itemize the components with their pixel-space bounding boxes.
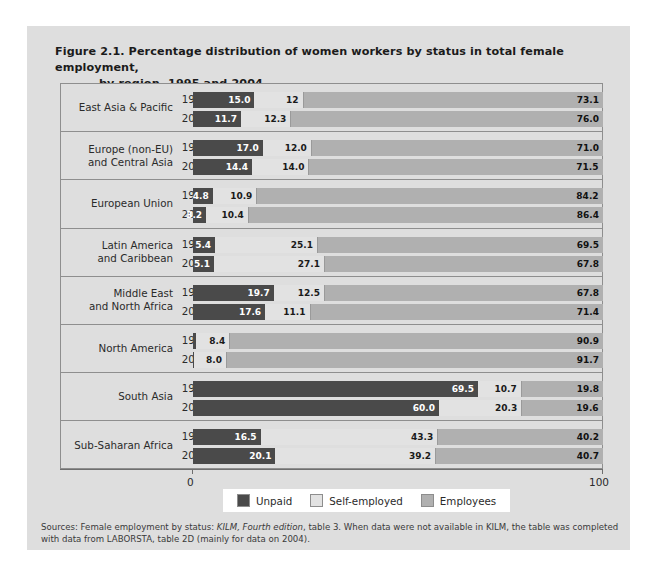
figure-title-line1: Figure 2.1. Percentage distribution of w…: [55, 45, 564, 74]
bar-segment-value: 14.4: [226, 162, 252, 172]
bar-segment-value: 67.8: [577, 259, 603, 269]
bar-segment-self-employed: 12.3: [241, 111, 291, 127]
legend-item: Employees: [421, 494, 496, 507]
bar-segment-value: 91.7: [577, 355, 603, 365]
bar-segment-value: 39.2: [409, 451, 435, 461]
bar-segment-value: 60.0: [413, 403, 439, 413]
bar-segment-self-employed: 25.1: [215, 237, 318, 253]
bar-segment-self-employed: 12.5: [274, 285, 325, 301]
bar-segment-value: 40.2: [577, 432, 603, 442]
bar-segment-value: 43.3: [411, 432, 437, 442]
region-group: Europe (non-EU)and Central Asia199517.01…: [61, 132, 602, 180]
bar-segment-unpaid: 69.5: [193, 381, 478, 397]
region-label-line: and Caribbean: [61, 252, 173, 265]
bar-row: 200411.712.376.0: [178, 111, 602, 127]
region-label: Middle Eastand North Africa: [61, 277, 178, 324]
bar-segment-unpaid: 60.0: [193, 400, 439, 416]
bar-segment-self-employed: 20.3: [439, 400, 522, 416]
bar-segment-value: 10.4: [222, 210, 248, 220]
region-label: South Asia: [61, 373, 178, 420]
bar-segment-value: 84.2: [576, 191, 602, 201]
bar-segment-employees: 19.6: [522, 400, 602, 416]
bar-segment-value: 27.1: [298, 259, 324, 269]
bar-segment-value: 71.0: [577, 143, 603, 153]
stacked-bar: 14.414.071.5: [193, 159, 603, 175]
legend-swatch-icon: [310, 494, 323, 507]
bar-segment-value: 12: [286, 95, 303, 105]
figure-panel: Figure 2.1. Percentage distribution of w…: [27, 26, 630, 550]
bar-segment-employees: 40.7: [436, 448, 603, 464]
bar-row: 19954.810.984.2: [178, 188, 602, 204]
bar-segment-employees: 86.4: [249, 207, 603, 223]
bar-segment-unpaid: 19.7: [193, 285, 274, 301]
bar-segment-value: 20.1: [249, 451, 275, 461]
bar-row: 200460.020.319.6: [178, 400, 602, 416]
bar-segment-self-employed: 27.1: [214, 256, 325, 272]
legend-label: Self-employed: [329, 495, 403, 507]
bar-segment-employees: 67.8: [325, 256, 603, 272]
chart-rows: East Asia & Pacific199515.01273.1200411.…: [61, 84, 602, 468]
bar-segment-self-employed: 8.4: [196, 333, 230, 349]
bar-segment-value: 25.1: [291, 240, 317, 250]
stacked-bar: 16.543.340.2: [193, 429, 603, 445]
bar-segment-self-employed: 12.0: [263, 140, 312, 156]
bar-segment-employees: 91.7: [227, 352, 603, 368]
bar-segment-employees: 76.0: [291, 111, 603, 127]
bar-segment-self-employed: 10.7: [478, 381, 522, 397]
bar-segment-employees: 71.0: [312, 140, 603, 156]
stacked-bar: 15.01273.1: [193, 92, 603, 108]
bar-segment-value: 11.7: [215, 114, 241, 124]
bar-segment-value: 3.2: [186, 210, 206, 220]
bar-segment-self-employed: 12: [254, 92, 303, 108]
bar-segment-unpaid: 14.4: [193, 159, 252, 175]
bar-segment-value: 10.7: [495, 384, 521, 394]
chart-legend: UnpaidSelf-employedEmployees: [223, 489, 510, 512]
bar-segment-unpaid: 5.4: [193, 237, 215, 253]
x-axis-line: [60, 469, 603, 470]
region-group: North America19950.78.490.920040.38.091.…: [61, 325, 602, 373]
bar-segment-self-employed: 8.0: [194, 352, 227, 368]
bar-segment-value: 19.8: [577, 384, 603, 394]
bar-segment-value: 71.4: [577, 307, 603, 317]
region-label: Latin Americaand Caribbean: [61, 229, 178, 276]
stacked-bar: 8.091.7: [193, 352, 603, 368]
region-group: Latin Americaand Caribbean19955.425.169.…: [61, 229, 602, 277]
bar-segment-value: 12.3: [264, 114, 290, 124]
bar-segment-value: 11.1: [283, 307, 309, 317]
bar-segment-employees: 19.8: [522, 381, 603, 397]
bar-segment-unpaid: 15.0: [193, 92, 254, 108]
bar-row: 199515.01273.1: [178, 92, 602, 108]
bar-segment-value: 69.5: [452, 384, 478, 394]
bar-segment-self-employed: 14.0: [252, 159, 309, 175]
bar-segment-value: 15.0: [228, 95, 254, 105]
bar-segment-value: 8.0: [206, 355, 226, 365]
sources-note: Sources: Female employment by status: KI…: [41, 521, 619, 545]
bar-segment-unpaid: 5.1: [193, 256, 214, 272]
bar-segment-employees: 90.9: [230, 333, 603, 349]
region-label: East Asia & Pacific: [61, 84, 178, 131]
bar-segment-value: 12.5: [298, 288, 324, 298]
region-group: Sub-Saharan Africa199516.543.340.2200420…: [61, 421, 602, 469]
stacked-bar: 8.490.9: [193, 333, 603, 349]
bar-segment-unpaid: 17.0: [193, 140, 263, 156]
sources-prefix: Sources: Female employment by status:: [41, 522, 217, 532]
bar-segment-self-employed: 39.2: [275, 448, 436, 464]
bar-segment-value: 19.6: [576, 403, 602, 413]
region-label-line: Europe (non-EU): [61, 143, 173, 156]
bar-segment-employees: 71.5: [309, 159, 602, 175]
stacked-bar: 19.712.567.8: [193, 285, 603, 301]
bar-segment-value: 5.4: [195, 240, 215, 250]
bar-row: 19955.425.169.5: [178, 237, 602, 253]
bar-segment-self-employed: 10.9: [213, 188, 258, 204]
region-label-line: and Central Asia: [61, 156, 173, 169]
region-label-line: Sub-Saharan Africa: [61, 439, 173, 452]
x-axis-tick-0: [192, 469, 193, 474]
region-label: European Union: [61, 180, 178, 227]
bar-segment-self-employed: 43.3: [261, 429, 439, 445]
legend-swatch-icon: [237, 494, 250, 507]
bar-segment-value: 40.7: [577, 451, 603, 461]
bar-segment-unpaid: 3.2: [193, 207, 206, 223]
region-label: North America: [61, 325, 178, 372]
bar-segment-value: 4.8: [193, 191, 213, 201]
bar-segment-value: 5.1: [194, 259, 214, 269]
